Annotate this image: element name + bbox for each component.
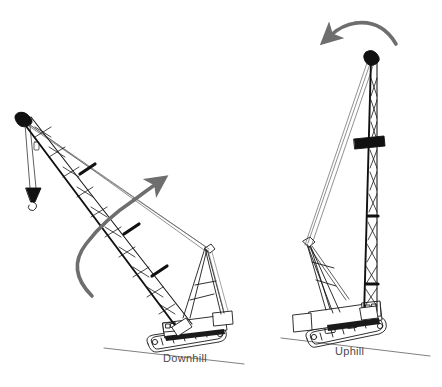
lattice-boom-uphill: [354, 50, 385, 320]
boom-tip-downhill: [15, 112, 32, 127]
crane-uphill: [293, 23, 396, 348]
counterweight-uphill: [354, 136, 385, 149]
hook-block-downhill: [26, 188, 41, 202]
boom-collar-1: [80, 164, 95, 174]
gantry-downhill: [183, 244, 224, 318]
label-uphill: Uphill: [335, 345, 364, 357]
swing-arrow-uphill: [331, 23, 396, 44]
label-downhill: Downhill: [163, 352, 207, 364]
diagram-canvas: [0, 0, 442, 387]
crane-slope-diagram: Downhill Uphill: [0, 0, 442, 387]
load-line-downhill: [25, 124, 41, 211]
gantry-uphill: [303, 237, 349, 313]
swing-arrow-downhill: [77, 184, 156, 296]
crane-downhill: [15, 112, 233, 352]
boom-tip-uphill: [364, 50, 380, 65]
boom-collar-2: [124, 224, 139, 234]
boom-collar-3: [152, 266, 167, 276]
boom-pendants-uphill: [305, 57, 375, 245]
